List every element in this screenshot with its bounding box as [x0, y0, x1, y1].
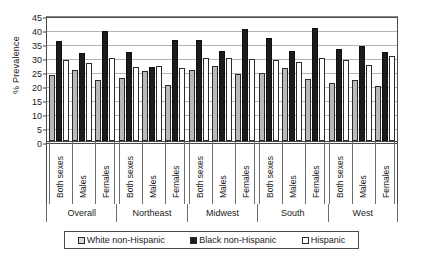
x-axis-category-label: Females — [305, 142, 325, 204]
bar — [102, 31, 108, 141]
bar — [203, 58, 209, 141]
bar — [336, 49, 342, 141]
bar — [319, 58, 325, 141]
x-axis-group-label: Overall — [46, 204, 116, 222]
x-axis-group-label: Midwest — [187, 204, 257, 222]
y-axis-tick-label: 40 — [32, 27, 47, 37]
legend-item-label: White non-Hispanic — [87, 235, 165, 245]
bar — [95, 80, 101, 141]
bar-cluster — [49, 17, 69, 141]
bar — [289, 51, 295, 141]
y-axis-title: % Prevalence — [11, 15, 21, 115]
x-axis-category-label: Females — [165, 142, 185, 204]
bar — [63, 60, 69, 141]
bar — [305, 79, 311, 141]
bar — [242, 29, 248, 141]
x-axis-category-text: Males — [358, 175, 368, 198]
x-axis-category-label: Males — [352, 142, 372, 204]
x-axis-category-text: Females — [381, 165, 391, 198]
x-axis-category-text: Females — [101, 165, 111, 198]
bar — [149, 67, 155, 141]
category-label-band: Both sexesMalesFemalesBoth sexesMalesFem… — [46, 142, 398, 204]
x-axis-category-label: Both sexes — [119, 142, 139, 204]
region-label-band: OverallNortheastMidwestSouthWest — [46, 204, 398, 222]
bar-cluster — [95, 17, 115, 141]
bar — [119, 78, 125, 141]
x-axis-category-label: Both sexes — [259, 142, 279, 204]
bar-cluster — [259, 17, 279, 141]
x-axis-category-text: Females — [241, 165, 251, 198]
x-axis-category-label: Males — [282, 142, 302, 204]
bar-cluster — [375, 17, 395, 141]
bar — [282, 68, 288, 141]
bar — [219, 51, 225, 141]
bar — [196, 40, 202, 141]
bar — [79, 53, 85, 141]
x-axis-category-text: Both sexes — [55, 156, 65, 198]
bar — [56, 41, 62, 141]
legend-item: White non-Hispanic — [78, 235, 165, 245]
legend-item: Black non-Hispanic — [190, 235, 276, 245]
white-square-icon — [302, 237, 309, 244]
y-axis-tick-label: 10 — [32, 111, 47, 121]
bar-cluster — [235, 17, 255, 141]
bar-cluster — [119, 17, 139, 141]
bar — [273, 60, 279, 141]
bar — [109, 58, 115, 141]
x-axis-category-text: Both sexes — [265, 156, 275, 198]
bar-group-midwest — [187, 17, 257, 141]
category-group: Both sexesMalesFemales — [117, 142, 187, 204]
bar-cluster — [212, 17, 232, 141]
bar — [259, 73, 265, 141]
bar-cluster — [72, 17, 92, 141]
x-axis-category-label: Both sexes — [49, 142, 69, 204]
x-axis-category-text: Males — [148, 175, 158, 198]
bar — [142, 71, 148, 141]
x-axis-category-text: Females — [171, 165, 181, 198]
y-axis-tick-label: 25 — [32, 69, 47, 79]
bar — [156, 66, 162, 141]
x-axis-category-text: Males — [78, 175, 88, 198]
y-axis-tick-label: 35 — [32, 41, 47, 51]
bar-chart: % Prevalence 051015202530354045 Both sex… — [0, 0, 422, 258]
x-axis-category-label: Males — [72, 142, 92, 204]
legend-item-label: Black non-Hispanic — [199, 235, 276, 245]
category-group: Both sexesMalesFemales — [257, 142, 327, 204]
x-axis-category-text: Both sexes — [335, 156, 345, 198]
legend-item-label: Hispanic — [311, 235, 346, 245]
bar — [235, 74, 241, 141]
bar — [329, 83, 335, 141]
legend-item: Hispanic — [302, 235, 346, 245]
bar-cluster — [189, 17, 209, 141]
bar — [126, 52, 132, 141]
bar — [133, 67, 139, 141]
bar — [389, 56, 395, 141]
x-axis-category-label: Both sexes — [329, 142, 349, 204]
x-axis-category-text: Males — [218, 175, 228, 198]
bar — [375, 86, 381, 141]
bar-cluster — [352, 17, 372, 141]
bar — [343, 60, 349, 141]
bar — [72, 70, 78, 141]
bar — [249, 59, 255, 141]
bar-group-south — [257, 17, 327, 141]
y-axis-tick-label: 15 — [32, 97, 47, 107]
bar — [49, 75, 55, 141]
x-axis-category-label: Males — [142, 142, 162, 204]
bar-group-overall — [47, 17, 117, 141]
bar — [266, 38, 272, 141]
category-group: Both sexesMalesFemales — [327, 142, 397, 204]
y-axis-tick-label: 5 — [37, 125, 47, 135]
gray-square-icon — [78, 237, 85, 244]
category-group: Both sexesMalesFemales — [47, 142, 117, 204]
x-axis-category-label: Females — [235, 142, 255, 204]
x-axis-category-label: Females — [95, 142, 115, 204]
bar-group-northeast — [117, 17, 187, 141]
bar — [352, 80, 358, 141]
bar-groups — [47, 17, 397, 141]
bar — [296, 62, 302, 141]
bar-group-west — [327, 17, 397, 141]
plot-area: 051015202530354045 — [46, 16, 398, 142]
bar — [312, 28, 318, 141]
category-group: Both sexesMalesFemales — [187, 142, 257, 204]
